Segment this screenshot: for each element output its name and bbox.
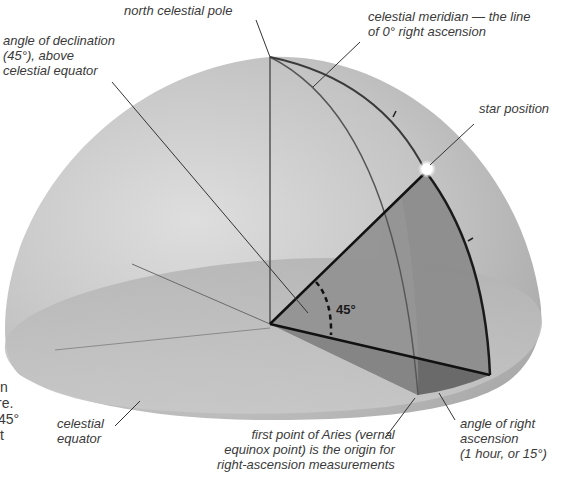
label-celestial-meridian: celestial meridian — the line of 0° righ…: [368, 9, 531, 39]
cut-off-text-line-4: t: [0, 427, 4, 443]
label-celestial-equator: celestial equator: [57, 416, 104, 446]
label-first-point-aries: first point of Aries (vernal equinox poi…: [217, 427, 395, 472]
label-declination: angle of declination (45°), above celest…: [3, 33, 115, 78]
cut-off-text-line-2: re.: [0, 395, 13, 411]
cut-off-text-line-1: n: [0, 379, 8, 395]
angle-45-label: 45°: [336, 302, 356, 317]
leader-north-pole: [256, 20, 270, 57]
star-icon: [422, 164, 433, 175]
label-north-celestial-pole: north celestial pole: [124, 3, 232, 18]
label-star-position: star position: [479, 101, 549, 116]
label-right-ascension: angle of right ascension (1 hour, or 15°…: [460, 416, 547, 461]
cut-off-text-line-3: 45°: [0, 411, 19, 427]
